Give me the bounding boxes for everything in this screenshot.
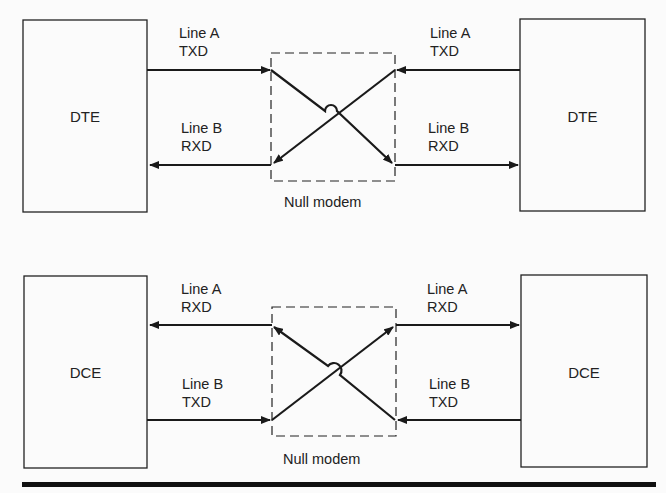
bottom-left-line-b-signal: TXD [182,393,211,411]
top-right-line-b-name: Line B [428,119,469,137]
bottom-left-line-b-name: Line B [182,375,223,393]
bottom-right-line-a-signal: RXD [427,298,458,316]
diagram-canvas [0,0,666,493]
dte-left-label: DTE [23,108,147,125]
null-modem-label-bottom: Null modem [283,450,360,468]
bottom-right-line-a-name: Line A [427,280,467,298]
dce-right-label: DCE [521,364,647,381]
bottom-cross-wire-1 [272,327,393,420]
top-right-line-b-signal: RXD [428,137,459,155]
top-left-line-b-name: Line B [181,119,222,137]
top-cross-wire-1 [271,70,392,163]
bottom-left-line-a-signal: RXD [181,298,212,316]
top-left-line-a-name: Line A [179,24,219,42]
bottom-rule [22,482,656,487]
top-left-line-a-signal: TXD [179,42,208,60]
dte-right-label: DTE [520,108,645,125]
top-right-line-a-name: Line A [430,24,470,42]
bottom-cross-wire-2 [274,327,395,420]
top-left-line-b-signal: RXD [181,137,212,155]
null-modem-label-top: Null modem [284,193,361,211]
dce-left-label: DCE [24,364,147,381]
bottom-left-line-a-name: Line A [181,280,221,298]
top-right-line-a-signal: TXD [430,42,459,60]
bottom-right-line-b-name: Line B [429,375,470,393]
bottom-right-line-b-signal: TXD [429,393,458,411]
